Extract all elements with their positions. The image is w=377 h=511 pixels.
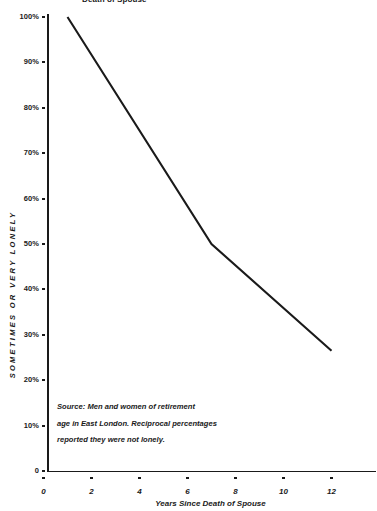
line-chart: Death of Spouse 010%20%30%40%50%60%70%80… [0,0,377,511]
x-axis-title: Years Since Death of Spouse [0,499,377,508]
y-axis-title: SOMETIMES OR VERY LONELY [8,195,17,395]
source-line-1: Source: Men and women of retirement [57,399,217,416]
source-annotation: Source: Men and women of retirement age … [57,399,217,449]
source-line-2: age in East London. Reciprocal percentag… [57,416,217,433]
series-polyline [68,17,332,351]
source-line-3: reported they were not lonely. [57,432,217,449]
